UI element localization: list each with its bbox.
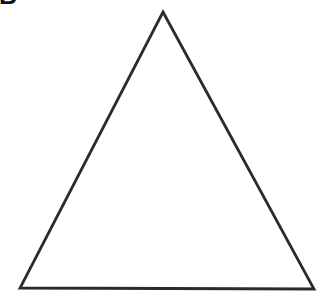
panel-label: B <box>0 0 17 8</box>
figure-canvas: B <box>0 0 329 302</box>
triangle-figure-svg <box>0 0 329 302</box>
figure-background <box>0 0 329 302</box>
